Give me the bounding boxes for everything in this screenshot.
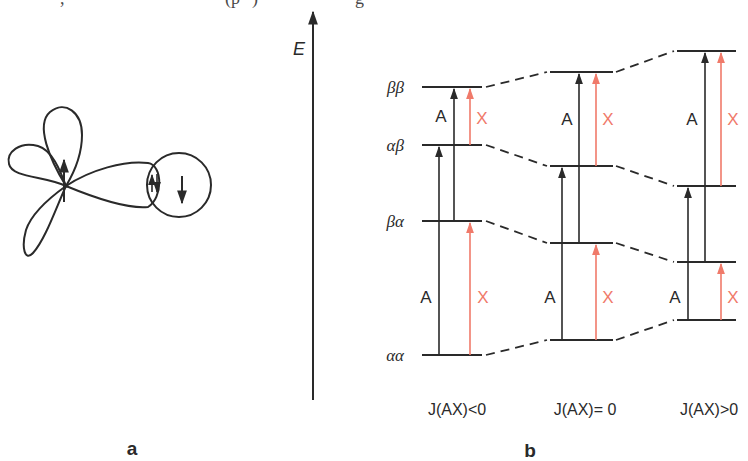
- state-label-bb: ββ: [386, 78, 404, 97]
- column-caption: J(AX)<0: [428, 401, 486, 418]
- state-label-aa: αα: [386, 346, 405, 365]
- svg-text:(p: (p: [225, 0, 240, 9]
- panel-a-label: a: [127, 438, 138, 459]
- svg-text:): ): [252, 0, 258, 9]
- state-labels: ββ αβ βα αα: [386, 78, 405, 365]
- svg-text:g: g: [355, 0, 364, 8]
- x-label: X: [727, 288, 738, 307]
- lower-lobe: [24, 186, 66, 256]
- x-label: X: [476, 109, 487, 128]
- orbital-diagram: [9, 107, 211, 256]
- upper-lobe: [44, 107, 82, 186]
- left-lobe: [9, 145, 66, 186]
- state-label-ab: αβ: [387, 136, 405, 155]
- level-connectors: [486, 51, 674, 355]
- panel-b-label: b: [524, 440, 536, 461]
- a-label: A: [686, 110, 698, 129]
- a-label: A: [544, 288, 556, 307]
- column-j-positive: A X A X J(AX)>0: [669, 51, 738, 418]
- x-label: X: [477, 288, 488, 307]
- column-j-negative: A X A X J(AX)<0: [420, 87, 488, 418]
- orbital-arrows: [64, 160, 182, 203]
- bonding-lobe: [66, 162, 159, 207]
- energy-level-figure: , (p ) g a E ββ αβ βα αα: [0, 0, 748, 461]
- a-label: A: [561, 110, 573, 129]
- a-label: A: [669, 288, 681, 307]
- state-label-ba: βα: [386, 212, 405, 231]
- column-caption: J(AX)= 0: [554, 401, 617, 418]
- top-text-fragment: , (p ) g: [60, 0, 364, 9]
- column-caption: J(AX)>0: [680, 401, 738, 418]
- a-label: A: [420, 288, 432, 307]
- x-label: X: [602, 110, 613, 129]
- svg-text:,: ,: [60, 0, 65, 8]
- x-label: X: [602, 288, 613, 307]
- energy-axis: E: [293, 12, 313, 400]
- column-j-zero: A X A X J(AX)= 0: [544, 72, 616, 418]
- x-label: X: [727, 110, 738, 129]
- a-label: A: [435, 107, 447, 126]
- energy-axis-label: E: [293, 39, 306, 59]
